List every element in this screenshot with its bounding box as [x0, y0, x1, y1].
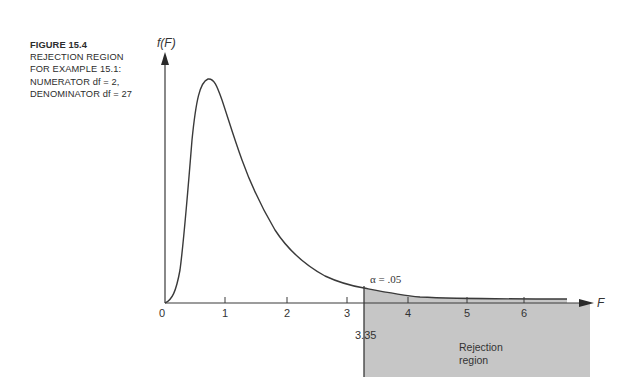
x-tick-label-2: 2	[284, 307, 290, 319]
x-axis-title: F	[597, 296, 605, 310]
alpha-tail-area	[364, 288, 567, 303]
x-tick-label-0: 0	[159, 307, 165, 319]
y-axis-title: f(F)	[157, 36, 176, 50]
x-tick-label-3: 3	[344, 307, 350, 319]
density-curve	[165, 79, 567, 303]
y-axis-arrow-icon	[161, 52, 169, 65]
x-tick-label-4: 4	[405, 307, 411, 319]
critical-value-label: 3.35	[355, 329, 376, 341]
x-tick-label-6: 6	[521, 307, 527, 319]
f-distribution-chart: 0 1 2 3 4 5 6 f(F) F α = .05 3.35 Reject…	[0, 0, 633, 389]
rejection-region-label-line1: Rejection	[459, 341, 503, 353]
alpha-label: α = .05	[370, 273, 402, 285]
rejection-region-label-line2: region	[459, 354, 488, 366]
x-tick-label-1: 1	[222, 307, 228, 319]
x-tick-label-5: 5	[464, 307, 470, 319]
